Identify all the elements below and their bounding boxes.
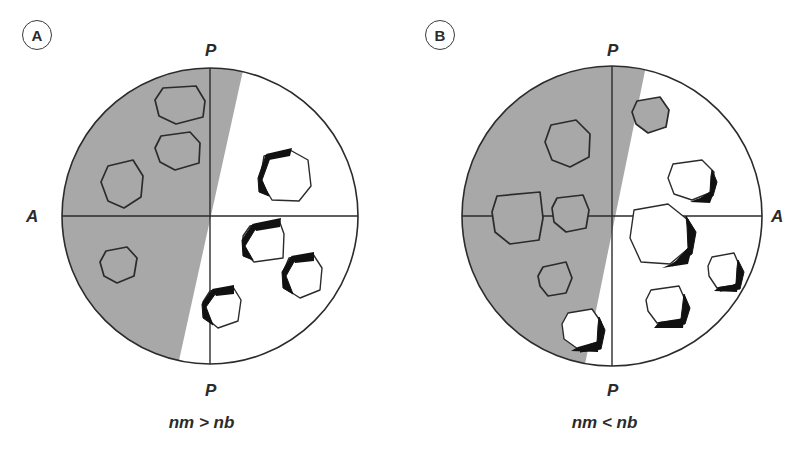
panel-a: A P P A nm > nb: [0, 0, 403, 452]
panel-b: B P P A nm < nb: [403, 0, 806, 452]
grain-outline: [538, 262, 572, 296]
panel-b-diagram: [403, 0, 806, 452]
panel-a-diagram: [0, 0, 403, 452]
grain-outline: [100, 247, 137, 283]
grain-with-relief: [282, 252, 322, 298]
grain-outline: [155, 86, 205, 124]
grain-outline: [646, 286, 686, 323]
grain-outline: [630, 204, 689, 264]
grain-outline: [708, 253, 740, 288]
grain-outline: [492, 192, 543, 244]
figure-root: A P P A nm > nb: [0, 0, 806, 452]
grain-outline: [545, 120, 590, 167]
